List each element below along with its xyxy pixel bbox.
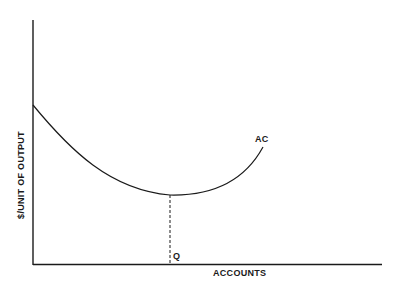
y-axis-label: $/UNIT OF OUTPUT bbox=[16, 115, 26, 235]
x-axis-label: ACCOUNTS bbox=[213, 268, 266, 278]
ac-curve-label: AC bbox=[255, 134, 269, 144]
average-cost-chart: $/UNIT OF OUTPUT AC Q ACCOUNTS bbox=[0, 0, 404, 293]
q-label: Q bbox=[173, 251, 180, 261]
ac-curve bbox=[33, 105, 263, 195]
chart-canvas bbox=[0, 0, 404, 293]
